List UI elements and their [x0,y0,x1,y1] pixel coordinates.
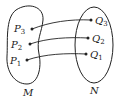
point-q1-label: Q1 [90,49,103,62]
point-p3-label: P3 [13,23,25,36]
point-p2-dot [29,43,32,46]
mapping-p1-q1 [27,54,86,60]
set-n-label: N [89,85,100,96]
set-m-label: M [22,87,34,98]
point-q3-dot [90,19,93,22]
point-p3-dot [31,28,34,31]
point-p2-label: P2 [10,39,22,52]
set-n-boundary [75,7,113,83]
point-q2-dot [87,37,90,40]
mapping-diagram: P3 P2 P1 Q3 Q2 Q1 M N [0,0,121,100]
point-q3-label: Q3 [95,15,108,28]
point-p1-label: P1 [9,55,21,68]
point-q2-label: Q2 [92,33,105,46]
point-p1-dot [26,59,29,62]
mapping-p3-q3 [32,20,91,29]
point-q1-dot [85,53,88,56]
